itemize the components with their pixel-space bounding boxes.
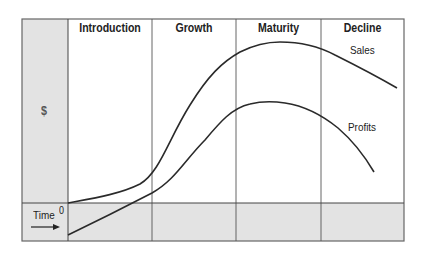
profits-label: Profits [348,121,376,133]
stage-label-decline: Decline [326,21,399,35]
stage-label-introduction: Introduction [73,21,147,35]
y-axis-label: $ [41,104,47,118]
negative-region-shaded-band [22,203,404,241]
x-axis-label: Time [33,209,55,221]
origin-label: 0 [59,205,64,216]
stage-label-growth: Growth [157,21,231,35]
sales-label: Sales [350,44,375,56]
stage-label-maturity: Maturity [241,21,316,35]
